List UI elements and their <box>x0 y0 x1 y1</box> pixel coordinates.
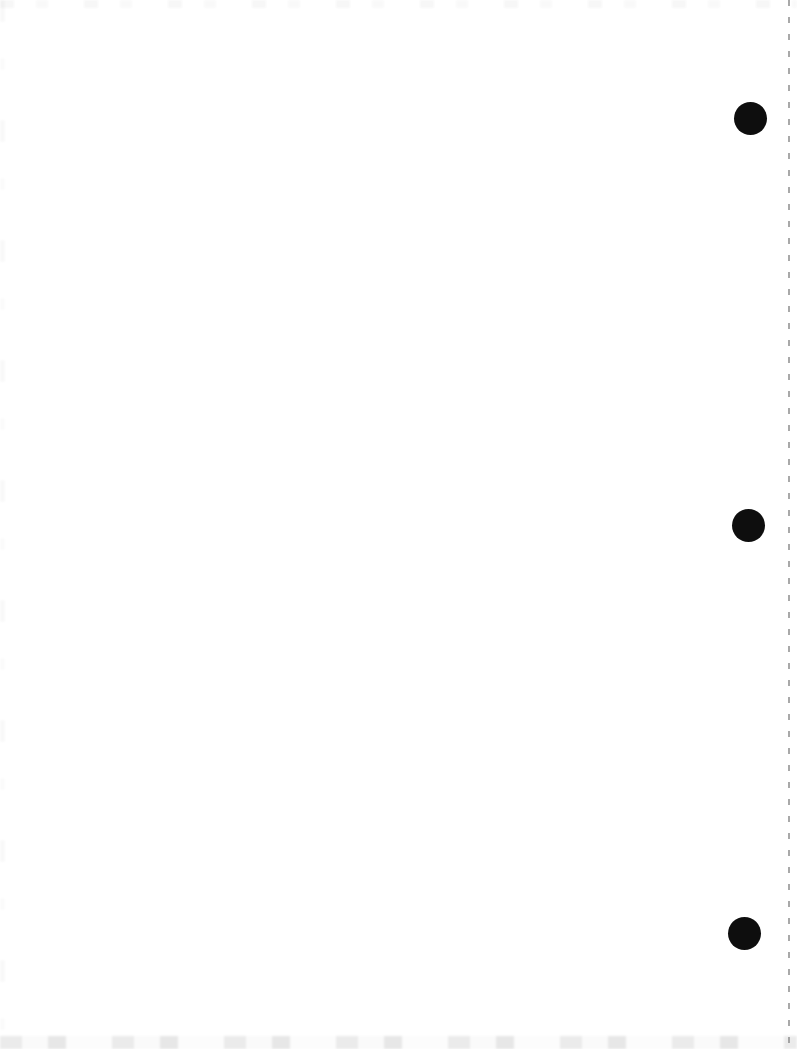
scan-edge-bottom <box>0 1036 797 1049</box>
scanned-page <box>0 0 797 1049</box>
scan-edge-left <box>0 0 5 1049</box>
punch-hole <box>732 509 765 542</box>
perforation-dashed-edge <box>788 0 790 1049</box>
scan-edge-top <box>0 0 797 8</box>
punch-hole <box>728 917 761 950</box>
punch-hole <box>734 102 767 135</box>
